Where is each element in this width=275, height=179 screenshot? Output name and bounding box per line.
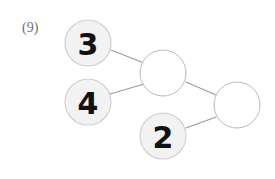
node-3-value: 3: [78, 27, 99, 62]
connector-sum1-to-sum2: [186, 82, 216, 95]
node-2-value: 2: [153, 120, 174, 155]
connector-4-to-sum1: [110, 84, 144, 94]
node-3[interactable]: 3: [65, 20, 111, 66]
node-2[interactable]: 2: [140, 113, 186, 159]
connector-3-to-sum1: [111, 50, 144, 63]
worksheet-canvas: (9) 3 4 2: [0, 0, 275, 179]
connector-2-to-sum2: [186, 117, 216, 128]
node-answer-2[interactable]: [214, 82, 260, 128]
number-bond-diagram: 3 4 2: [0, 0, 275, 179]
node-4[interactable]: 4: [65, 79, 111, 125]
node-answer-1[interactable]: [140, 50, 186, 96]
node-answer-2-circle[interactable]: [214, 82, 260, 128]
node-answer-1-circle[interactable]: [140, 50, 186, 96]
node-4-value: 4: [78, 86, 99, 121]
